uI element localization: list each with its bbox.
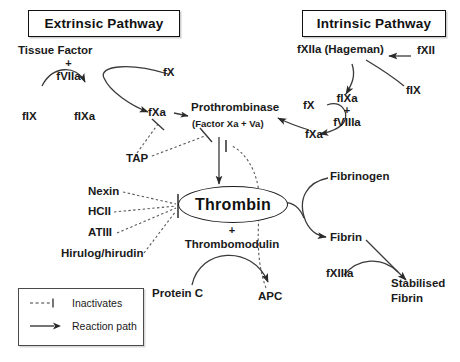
edge-nexin-inactivates-thrombin [123,192,176,204]
node-fviiia: fVIIIa [318,116,376,129]
edge-tap-inactivates-prothrombinase [152,136,205,156]
legend-label-inactivates: Inactivates [72,297,122,309]
node-fxa-extrinsic: fXa [148,106,166,119]
node-fxii: fXII [417,44,435,57]
node-fix-extrinsic: fIX [22,110,37,123]
node-hcii: HCII [88,205,111,218]
node-protein-c: Protein C [152,287,203,300]
legend-label-reaction-path: Reaction path [72,320,137,332]
edge-fxiia-to-fixa [346,64,354,94]
legend-row-reaction-path: Reaction path [28,320,137,332]
node-fx-extrinsic: fX [163,66,175,79]
node-nexin: Nexin [88,185,119,198]
node-apc: APC [258,290,282,303]
header-extrinsic-label: Extrinsic Pathway [45,16,164,31]
header-intrinsic-pathway: Intrinsic Pathway [302,10,446,37]
node-tissue-factor: Tissue Factor [18,44,93,57]
node-fviia: fVIIa [18,70,119,83]
node-fxiia-hageman: fXIIa (Hageman) [297,43,384,56]
edge-fibrinogen-to-fibrin [302,178,328,237]
inhibit-bar-tap-prothrombinase [200,128,212,142]
legend-row-inactivates: Inactivates [28,297,122,309]
node-thrombin: Thrombin [178,186,288,223]
coagulation-cascade-diagram: Extrinsic Pathway Intrinsic Pathway Tiss… [0,0,460,362]
inactivates-icon [28,297,66,309]
node-atiii: ATIII [88,226,112,239]
node-plus-extrinsic: + [18,57,119,69]
node-fibrin: Fibrin [330,231,362,244]
node-tap: TAP [126,152,148,165]
edge-fxa-to-prothrombinase-left [174,113,188,116]
reaction-path-icon [28,320,66,332]
node-fx-intrinsic: fX [303,99,315,112]
node-fxa-intrinsic: fXa [305,128,323,141]
node-prothrombinase-subtitle: (Factor Xa + Va) [192,119,264,130]
edge-fix-right-to-fixa [366,60,404,86]
header-extrinsic-pathway: Extrinsic Pathway [28,10,180,37]
node-plus-intrinsic: + [318,104,376,116]
inhibit-bar-tap-fxa [152,119,164,130]
node-fxiiia: fXIIIa [326,267,353,280]
node-stabilised-fibrin-line1: Stabilised [391,277,445,290]
edge-hcii-inactivates-thrombin [114,206,176,212]
node-hirulog-hirudin: Hirulog/hirudin [61,247,143,260]
node-thrombomodulin: Thrombomodulin [160,238,304,251]
edge-tap-inactivates-fxa [137,124,158,153]
header-intrinsic-label: Intrinsic Pathway [317,16,431,31]
node-prothrombinase: Prothrombinase [191,101,279,114]
edge-fibrin-to-stabilised-fibrin [366,240,406,280]
edge-protein-c-to-apc [192,255,268,285]
node-plus-thrombin: + [178,224,286,236]
node-fixa-extrinsic: fIXa [74,110,95,123]
node-fixa-intrinsic: fIXa [318,92,376,105]
node-fibrinogen: Fibrinogen [330,170,389,183]
node-stabilised-fibrin-line2: Fibrin [391,292,423,305]
node-fix-intrinsic: fIX [406,84,421,97]
node-thrombin-label: Thrombin [195,196,271,214]
edge-atiii-inactivates-thrombin [117,208,176,233]
